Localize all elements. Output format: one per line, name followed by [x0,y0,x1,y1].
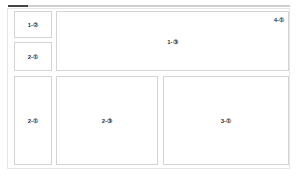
panel-1-2[interactable]: 1-② [14,11,52,38]
panel-2-1-tall[interactable]: 2-① [14,76,52,165]
panel-label: 1-② [28,21,39,28]
panel-label: 2-① [28,53,39,60]
panel-label: 3-① [221,117,232,124]
panel-1-3[interactable]: 1-③ 4-① [56,11,289,71]
panel-label: 2-① [28,117,39,124]
panel-2-1-small[interactable]: 2-① [14,42,52,71]
panel-2-3[interactable]: 2-③ [56,76,158,165]
panel-label: 1-③ [167,38,178,45]
panel-label: 2-③ [102,117,113,124]
panel-3-1[interactable]: 3-① [163,76,289,165]
layout-canvas: 1-② 2-① 1-③ 4-① 2-① 2-③ 3-① [0,0,297,178]
panel-corner-label: 4-① [274,16,284,23]
progress-fill [8,5,28,7]
progress-bar [8,5,290,7]
